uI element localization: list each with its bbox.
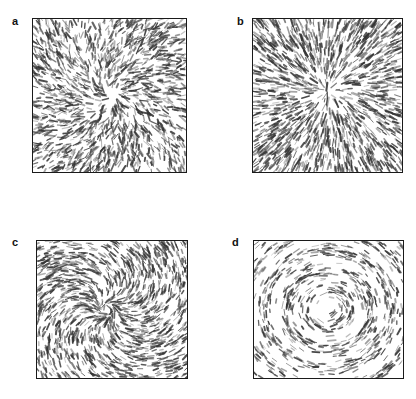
panel-a: a <box>0 0 208 200</box>
panel-plot-d <box>253 240 404 379</box>
panel-label-a: a <box>12 16 18 27</box>
panel-plot-b <box>252 18 403 173</box>
panel-d: d <box>208 200 416 399</box>
figure-root: a b c d <box>0 0 416 399</box>
panel-label-c: c <box>12 237 18 248</box>
panel-plot-c <box>36 240 188 379</box>
panel-b: b <box>208 0 416 200</box>
vector-field-b <box>253 19 402 172</box>
panel-plot-a <box>32 18 187 173</box>
panel-label-d: d <box>232 237 239 248</box>
vector-field-a <box>33 19 186 172</box>
panel-c: c <box>0 200 208 399</box>
panel-label-b: b <box>237 16 244 27</box>
vector-field-c <box>37 241 187 378</box>
vector-field-d <box>254 241 403 378</box>
